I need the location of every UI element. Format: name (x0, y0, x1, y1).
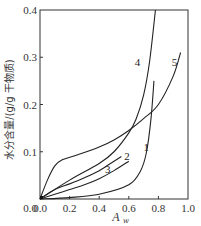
curve-label-4: 4 (135, 56, 141, 68)
curve-label-2: 2 (124, 150, 130, 162)
axes: 0.00.20.40.60.81.00.00.10.20.30.4 (23, 4, 195, 214)
moisture-sorption-chart: 0.00.20.40.60.81.00.00.10.20.30.4 Aw水分含量… (0, 0, 201, 226)
labels: Aw水分含量/(g/g 干物质)12345 (3, 56, 178, 225)
x-tick-label: 0.2 (63, 202, 77, 214)
x-axis-label-subscript: w (123, 217, 129, 225)
curve-label-3: 3 (105, 163, 111, 175)
curve-4 (40, 10, 155, 199)
origin-marker (40, 196, 43, 199)
curve-label-5: 5 (172, 56, 178, 68)
x-tick-label: 0.4 (92, 202, 106, 214)
curve-3 (40, 161, 129, 199)
x-axis-label: A (111, 210, 120, 224)
curve-label-1: 1 (144, 141, 150, 153)
y-tick-label: 0.2 (23, 99, 37, 111)
x-tick-label: 0.8 (152, 202, 166, 214)
curve-5 (40, 53, 181, 199)
y-tick-label: 0.1 (23, 146, 37, 158)
y-tick-label: 0.3 (23, 51, 37, 63)
y-axis-label: 水分含量/(g/g 干物质) (3, 59, 15, 160)
x-tick-label: 0.6 (122, 202, 136, 214)
y-tick-label: 0.4 (23, 4, 37, 16)
y-tick-label: 0.0 (23, 202, 37, 214)
curve-1 (40, 81, 154, 199)
x-tick-label: 1.0 (181, 202, 195, 214)
